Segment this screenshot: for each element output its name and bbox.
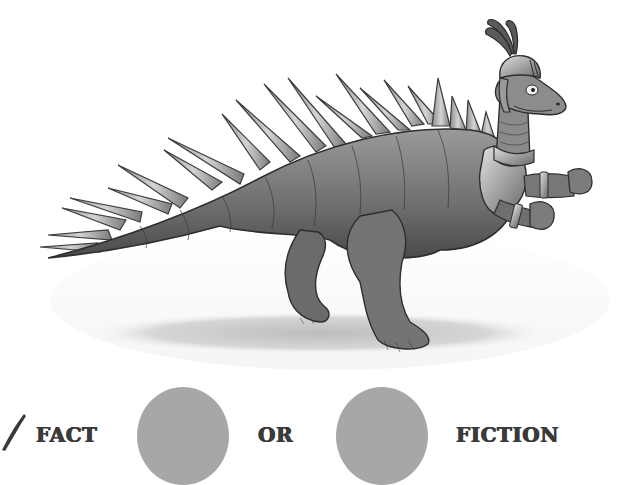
fiction-label: FICTION: [456, 423, 559, 447]
check-mark-icon: [0, 412, 28, 452]
fiction-answer-circle[interactable]: [336, 387, 428, 485]
dinosaur-illustration: [0, 0, 620, 380]
fact-label: FACT: [36, 423, 97, 447]
fact-answer-circle[interactable]: [137, 387, 229, 485]
or-label: OR: [258, 423, 293, 447]
